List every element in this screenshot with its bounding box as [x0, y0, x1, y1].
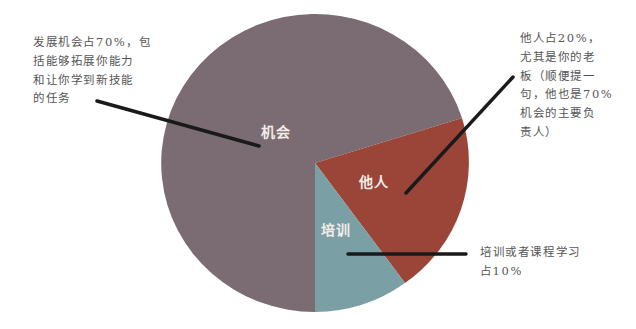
annotation-line: 尤其是你的老: [520, 48, 613, 67]
annotation-line: 他人占20%，: [520, 29, 613, 48]
annotation-line: 占10%: [480, 262, 581, 281]
annotation-line: 和让你学到新技能: [33, 71, 152, 90]
annotation-others: 他人占20%， 尤其是你的老 板（顺便提一 句，他也是70% 机会的主要负 责人…: [520, 29, 613, 142]
annotation-line: 责人）: [520, 123, 613, 142]
annotation-line: 的任务: [33, 89, 152, 108]
annotation-line: 培训或者课程学习: [480, 243, 581, 262]
annotation-line: 发展机会占70%，包: [33, 33, 152, 52]
annotation-line: 机会的主要负: [520, 104, 613, 123]
annotation-training: 培训或者课程学习 占10%: [480, 243, 581, 281]
annotation-line: 括能够拓展你能力: [33, 52, 152, 71]
slice-label-training: 培训: [321, 219, 351, 239]
annotation-line: 句，他也是70%: [520, 85, 613, 104]
slice-label-opportunity: 机会: [261, 121, 291, 141]
annotation-line: 板（顺便提一: [520, 67, 613, 86]
annotation-opportunity: 发展机会占70%，包 括能够拓展你能力 和让你学到新技能 的任务: [33, 33, 152, 108]
slice-label-others: 他人: [359, 171, 389, 191]
